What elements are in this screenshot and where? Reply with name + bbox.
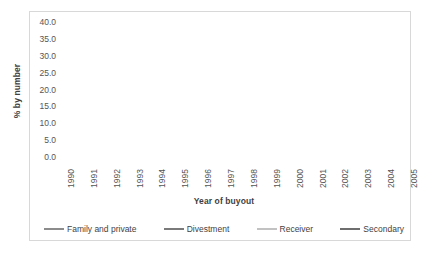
x-tick-label: 2000 — [295, 169, 305, 188]
legend-label: Divestment — [187, 224, 230, 234]
legend-item-secondary[interactable]: Secondary — [340, 224, 404, 234]
x-tick-label: 1991 — [89, 169, 99, 188]
x-tick-label: 1993 — [135, 169, 145, 188]
legend-swatch-icon — [340, 228, 360, 230]
y-tick-label: 15.0 — [28, 101, 56, 111]
x-tick-label: 1990 — [66, 169, 76, 188]
legend-label: Family and private — [67, 224, 136, 234]
x-tick-label: 2005 — [409, 169, 419, 188]
y-tick-label: 0.0 — [28, 152, 56, 162]
legend-label: Secondary — [363, 224, 404, 234]
legend-item-family-and-private[interactable]: Family and private — [44, 224, 136, 234]
legend-item-divestment[interactable]: Divestment — [164, 224, 230, 234]
legend-item-receiver[interactable]: Receiver — [257, 224, 314, 234]
legend-swatch-icon — [257, 228, 277, 230]
x-tick-label: 1994 — [157, 169, 167, 188]
y-tick-label: 35.0 — [28, 34, 56, 44]
y-tick-label: 30.0 — [28, 51, 56, 61]
y-tick-label: 25.0 — [28, 68, 56, 78]
x-tick-label: 1995 — [180, 169, 190, 188]
x-tick-label: 1992 — [112, 169, 122, 188]
chart-frame — [29, 11, 411, 241]
chart-legend: Family and privateDivestmentReceiverSeco… — [44, 222, 404, 236]
x-tick-label: 2001 — [318, 169, 328, 188]
x-tick-label: 2003 — [363, 169, 373, 188]
x-tick-label: 1998 — [249, 169, 259, 188]
x-axis-title: Year of buyout — [149, 196, 299, 206]
y-tick-label: 5.0 — [28, 135, 56, 145]
y-tick-label: 20.0 — [28, 85, 56, 95]
x-tick-label: 1999 — [272, 169, 282, 188]
x-tick-label: 2002 — [340, 169, 350, 188]
x-tick-label: 2004 — [386, 169, 396, 188]
y-axis-title: % by number — [12, 61, 22, 121]
y-tick-label: 10.0 — [28, 118, 56, 128]
legend-swatch-icon — [164, 228, 184, 230]
legend-swatch-icon — [44, 228, 64, 230]
legend-label: Receiver — [280, 224, 314, 234]
y-tick-label: 40.0 — [28, 17, 56, 27]
x-tick-label: 1997 — [226, 169, 236, 188]
chart-container: % by number Year of buyout 0.05.010.015.… — [0, 0, 442, 257]
x-tick-label: 1996 — [203, 169, 213, 188]
